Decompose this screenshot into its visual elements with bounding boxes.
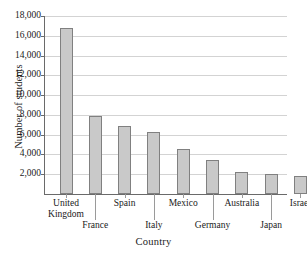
y-tick-mark [41, 75, 44, 76]
x-tick-label: France [82, 220, 108, 231]
x-tick-label: Japan [260, 220, 282, 231]
y-tick-label: 4,000 [20, 150, 41, 160]
y-tick-mark [41, 154, 44, 155]
bar [235, 172, 248, 194]
y-tick-mark [41, 36, 44, 37]
x-tick-label: Germany [195, 220, 230, 231]
bar [89, 116, 102, 194]
gridline [45, 174, 287, 175]
plot-area: 2,0004,0006,0008,00010,00012,00014,00016… [44, 16, 287, 194]
x-tick-label: Spain [114, 198, 136, 209]
x-tick-label: Australia [224, 198, 259, 209]
gridline [45, 154, 287, 155]
x-tick-label: Israel [290, 198, 307, 209]
x-tick-label: UnitedKingdom [48, 198, 84, 219]
x-tick-mark [213, 194, 214, 220]
bar [265, 174, 278, 194]
y-axis-line [44, 16, 45, 194]
y-tick-mark [41, 56, 44, 57]
y-tick-mark [41, 174, 44, 175]
y-tick-label: 10,000 [15, 90, 41, 100]
y-tick-label: 2,000 [20, 169, 41, 179]
gridline [45, 75, 287, 76]
y-tick-mark [41, 95, 44, 96]
y-tick-label: 18,000 [15, 11, 41, 21]
bar [206, 160, 219, 194]
bar [294, 176, 307, 194]
x-tick-label: Italy [145, 220, 162, 231]
bar [177, 149, 190, 194]
y-tick-label: 14,000 [15, 51, 41, 61]
bar [60, 28, 73, 194]
x-axis-title: Country [0, 236, 307, 247]
gridline [45, 16, 287, 17]
y-tick-label: 12,000 [15, 71, 41, 81]
gridline [45, 135, 287, 136]
x-tick-label: Mexico [169, 198, 198, 209]
x-tick-mark [95, 194, 96, 220]
gridline [45, 95, 287, 96]
bar [118, 126, 131, 194]
y-tick-mark [41, 115, 44, 116]
gridline [45, 36, 287, 37]
x-tick-mark [154, 194, 155, 220]
gridline [45, 56, 287, 57]
y-tick-label: 6,000 [20, 130, 41, 140]
y-tick-label: 8,000 [20, 110, 41, 120]
y-tick-mark [41, 16, 44, 17]
gridline [45, 115, 287, 116]
bar [147, 132, 160, 194]
y-tick-label: 16,000 [15, 31, 41, 41]
x-axis-line [44, 194, 287, 195]
bar-chart: Number of students 2,0004,0006,0008,0001… [0, 0, 307, 257]
x-tick-mark [271, 194, 272, 220]
y-tick-mark [41, 135, 44, 136]
